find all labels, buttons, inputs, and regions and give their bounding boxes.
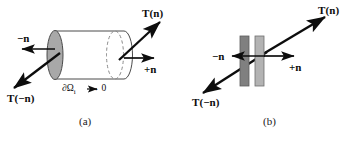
- cylinder-body: [55, 31, 133, 79]
- slab-left: [240, 36, 249, 86]
- label-minus-n-a: −n: [17, 33, 30, 44]
- label-plus-n-b: +n: [289, 62, 302, 73]
- cylinder-dashed-rim: [107, 31, 124, 79]
- label-traction-n-b: T(n): [318, 5, 339, 16]
- arrow-traction-n: [119, 22, 160, 60]
- panel-a: −n T(−n) T(n) +n ∂Ωi→ 0 (a): [0, 0, 181, 142]
- cylinder-left-cap: [47, 31, 63, 80]
- label-domain-a: ∂Ωi→ 0: [62, 84, 106, 96]
- label-traction-minus-n-b: T(−n): [192, 97, 220, 108]
- caption-b: (b): [263, 116, 276, 127]
- panel-b: −n +n T(n) T(−n) (b): [181, 0, 362, 142]
- slab-right: [255, 36, 264, 86]
- label-domain-limit: → 0: [76, 83, 107, 93]
- arrow-traction-n-b: [263, 17, 325, 54]
- label-plus-n-a: +n: [144, 64, 157, 75]
- label-traction-minus-n-a: T(−n): [7, 93, 35, 104]
- label-domain-symbol: ∂Ω: [62, 83, 74, 93]
- label-traction-n-a: T(n): [142, 8, 163, 19]
- figure-container: −n T(−n) T(n) +n ∂Ωi→ 0 (a): [0, 0, 362, 142]
- caption-a: (a): [79, 116, 91, 127]
- label-minus-n-b: −n: [212, 51, 225, 62]
